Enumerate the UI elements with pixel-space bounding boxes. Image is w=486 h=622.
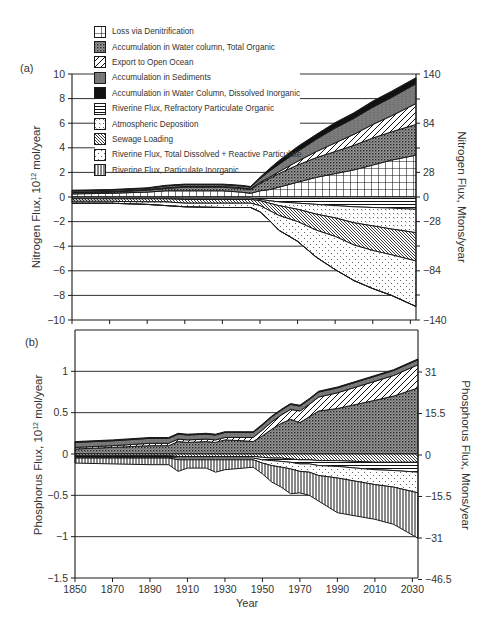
legend-swatch-sparse-dots	[94, 149, 106, 161]
legend-item: Accumulation in Sediments	[94, 70, 301, 85]
y-tick-label: 0	[62, 448, 68, 460]
legend-swatch-dense-dots	[94, 41, 106, 53]
y-right-tick-label: 0	[425, 449, 431, 461]
legend-swatch-diagonal-dense	[94, 133, 106, 145]
legend-swatch-crosses	[94, 118, 106, 130]
y-tick-label: −1.5	[47, 572, 68, 584]
legend-label: Accumulation in Water column, Total Orga…	[112, 43, 275, 52]
y-tick-label: −10	[47, 314, 65, 326]
x-axis-title: Year	[236, 597, 258, 609]
y-tick-label: 2	[59, 166, 65, 178]
legend-item: Riverine Flux, Particulate Inorganic	[94, 163, 301, 178]
legend-item: Export to Open Ocean	[94, 55, 301, 70]
panel-a-left-axis-title: Nitrogen Flux, 1012 mol/year	[30, 126, 43, 269]
legend-label: Sewage Loading	[112, 135, 173, 144]
legend-item: Accumulation in Water Column, Dissolved …	[94, 86, 301, 101]
legend-label: Riverine Flux, Refractory Particulate Or…	[112, 104, 274, 113]
x-tick-label: 1910	[176, 583, 200, 595]
legend-item: Sewage Loading	[94, 132, 301, 147]
legend-swatch-grid	[94, 26, 106, 38]
legend-swatch-horizontal	[94, 103, 106, 115]
panel-b-right-axis-title: Phosphorus Flux, Mtons/year	[460, 380, 472, 530]
legend-label: Riverine Flux, Particulate Inorganic	[112, 166, 239, 175]
legend-item: Accumulation in Water column, Total Orga…	[94, 39, 301, 54]
panel-b-phosphorus: 10.50−0.5−1−1.53115.50−15.5−31−46.518501…	[47, 330, 451, 595]
legend-swatch-diagonal	[94, 56, 106, 68]
x-tick-label: 1850	[63, 583, 87, 595]
y-right-tick-label: −84	[423, 264, 441, 276]
legend-swatch-solid-black	[94, 87, 106, 99]
x-tick-label: 1990	[326, 583, 350, 595]
y-tick-label: 8	[59, 92, 65, 104]
legend-swatch-zigzag	[94, 72, 106, 84]
y-tick-label: 4	[59, 141, 65, 153]
y-tick-label: 1	[62, 365, 68, 377]
y-tick-label: 6	[59, 117, 65, 129]
panel-a-label: (a)	[20, 62, 33, 74]
y-tick-label: 0	[59, 191, 65, 203]
x-tick-label: 1930	[213, 583, 237, 595]
y-tick-label: 0.5	[53, 406, 68, 418]
legend-label: Accumulation in Water Column, Dissolved …	[112, 89, 300, 98]
y-right-tick-label: −28	[423, 215, 441, 227]
legend: Loss via DenitrificationAccumulation in …	[94, 24, 301, 178]
y-tick-label: −0.5	[47, 489, 68, 501]
y-right-tick-label: −31	[425, 532, 443, 544]
panel-b-label: (b)	[25, 336, 38, 348]
legend-item: Riverine Flux, Refractory Particulate Or…	[94, 101, 301, 116]
legend-swatch-vertical	[94, 164, 106, 176]
y-right-tick-label: −46.5	[425, 573, 452, 585]
y-right-tick-label: −15.5	[425, 490, 452, 502]
y-right-tick-label: 15.5	[425, 407, 446, 419]
legend-item: Loss via Denitrification	[94, 24, 301, 39]
y-tick-label: −4	[53, 240, 65, 252]
y-tick-label: −2	[53, 215, 65, 227]
x-tick-label: 1870	[101, 583, 125, 595]
legend-label: Riverine Flux, Total Dissolved + Reactiv…	[112, 150, 301, 159]
y-right-tick-label: 31	[425, 366, 437, 378]
legend-label: Loss via Denitrification	[112, 27, 194, 36]
y-tick-label: −1	[56, 530, 68, 542]
y-right-tick-label: −140	[423, 314, 447, 326]
x-tick-label: 2030	[401, 583, 425, 595]
y-right-tick-label: 28	[423, 166, 435, 178]
y-tick-label: 10	[53, 68, 65, 80]
panel-b-stacked-areas	[75, 359, 418, 538]
y-right-tick-label: 0	[423, 191, 429, 203]
legend-label: Export to Open Ocean	[112, 58, 193, 67]
legend-label: Accumulation in Sediments	[112, 73, 211, 82]
panel-b-left-axis-title: Phosphorus Flux, 1012 mol/year	[32, 375, 45, 536]
y-tick-label: −6	[53, 264, 65, 276]
y-right-tick-label: 140	[423, 68, 441, 80]
x-tick-label: 1890	[138, 583, 162, 595]
x-tick-label: 1970	[288, 583, 312, 595]
legend-item: Riverine Flux, Total Dissolved + Reactiv…	[94, 147, 301, 162]
x-tick-label: 2010	[363, 583, 387, 595]
x-tick-label: 1950	[251, 583, 275, 595]
legend-label: Atmospheric Deposition	[112, 120, 198, 129]
y-right-tick-label: 84	[423, 117, 435, 129]
panel-a-right-axis-title: Nitrogen Flux, Mtons/year	[456, 131, 468, 263]
y-tick-label: −8	[53, 289, 65, 301]
legend-item: Atmospheric Deposition	[94, 116, 301, 131]
